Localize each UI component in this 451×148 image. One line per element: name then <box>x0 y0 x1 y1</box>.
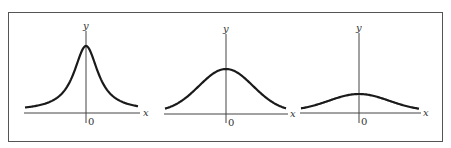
panel-medium: y x 0 <box>164 23 296 128</box>
panel-wide: y x 0 <box>300 22 429 127</box>
y-axis-label: y <box>355 22 362 33</box>
curve <box>301 94 419 109</box>
x-axis-label: x <box>423 107 429 118</box>
panel-narrow: y x 0 <box>24 20 149 127</box>
x-axis-label: x <box>143 107 149 118</box>
origin-label: 0 <box>228 117 234 128</box>
y-axis-label: y <box>222 23 229 34</box>
y-axis-label: y <box>82 20 89 31</box>
origin-label: 0 <box>361 116 367 127</box>
x-axis-label: x <box>290 108 296 119</box>
curve <box>25 46 138 107</box>
bell-curves-figure: y x 0 y x 0 y x 0 <box>0 0 451 148</box>
origin-label: 0 <box>88 116 94 127</box>
